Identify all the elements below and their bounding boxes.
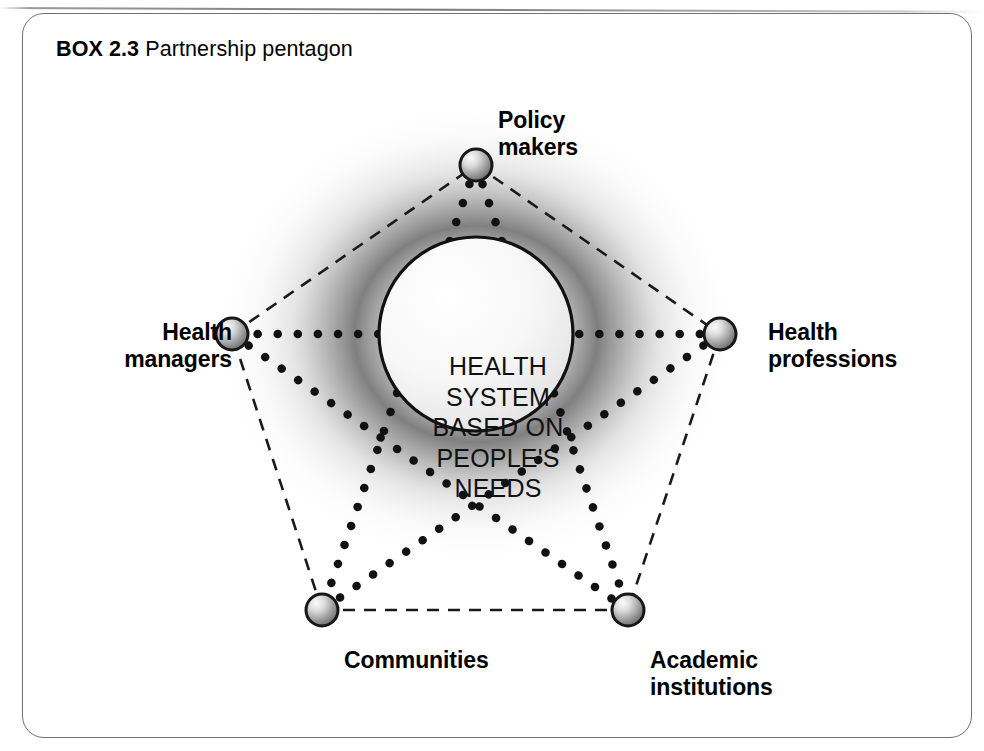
node-label-health-professions-line1: Health bbox=[768, 319, 897, 346]
node-academic-institutions[interactable] bbox=[612, 594, 644, 626]
pentagon-graphic bbox=[22, 13, 972, 738]
node-label-health-managers-line2: managers bbox=[124, 346, 232, 373]
center-circle bbox=[379, 237, 573, 431]
node-label-health-professions-line2: professions bbox=[768, 346, 897, 373]
node-label-health-professions: Health professions bbox=[768, 319, 897, 373]
node-policy-makers[interactable] bbox=[460, 149, 492, 181]
partnership-pentagon-diagram: HEALTH SYSTEM BASED ON PEOPLE'S NEEDS Po… bbox=[22, 13, 972, 738]
node-communities[interactable] bbox=[306, 594, 338, 626]
node-health-professions[interactable] bbox=[704, 318, 736, 350]
node-label-health-managers: Health managers bbox=[124, 319, 232, 373]
node-label-health-managers-line1: Health bbox=[124, 319, 232, 346]
scan-edge-artifact bbox=[0, 7, 984, 13]
